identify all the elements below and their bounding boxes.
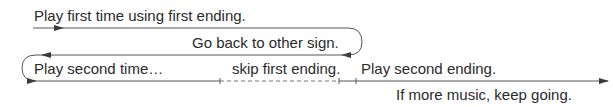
- label-first-time: Play first time using first ending.: [34, 7, 246, 24]
- label-second-ending: Play second ending.: [361, 60, 496, 77]
- label-go-back: Go back to other sign.: [192, 34, 339, 51]
- label-keep-going: If more music, keep going.: [396, 86, 572, 103]
- label-skip-first: skip first ending.: [232, 60, 340, 77]
- label-second-time: Play second time…: [34, 60, 163, 77]
